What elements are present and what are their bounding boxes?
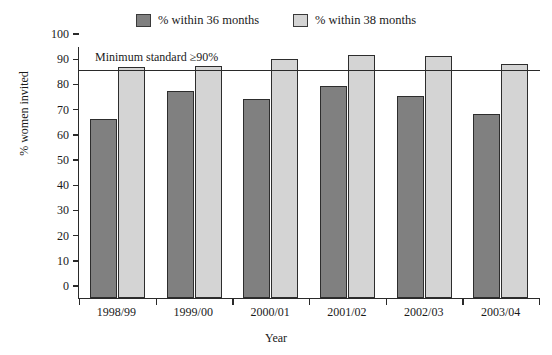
bar-group bbox=[386, 47, 463, 298]
y-axis-tick: 50 bbox=[57, 154, 79, 166]
plot-wrapper: % women invited 0102030405060708090100 M… bbox=[0, 0, 552, 355]
bar-36-months bbox=[397, 96, 424, 298]
x-axis-tick-label: 2001/02 bbox=[308, 305, 385, 320]
bar-36-months bbox=[243, 99, 270, 298]
y-axis-tick-label: 50 bbox=[57, 154, 69, 166]
bar-38-months bbox=[195, 66, 222, 298]
x-axis-tick-mark bbox=[232, 298, 233, 305]
x-axis-tick-mark bbox=[462, 298, 463, 305]
bar-38-months bbox=[501, 64, 528, 298]
y-axis-tick-label: 70 bbox=[57, 104, 69, 116]
y-axis-tick: 30 bbox=[57, 204, 79, 216]
bar-38-months bbox=[348, 55, 375, 298]
y-axis-tick-label: 0 bbox=[63, 280, 69, 292]
y-axis-tick: 100 bbox=[51, 28, 79, 40]
minimum-standard-annotation: Minimum standard ≥90% bbox=[95, 50, 218, 65]
x-axis-tick-mark bbox=[156, 298, 157, 305]
bar-36-months bbox=[167, 91, 194, 298]
y-axis-title: % women invited bbox=[17, 44, 32, 184]
y-axis-tick: 40 bbox=[57, 179, 79, 191]
y-axis-tick: 80 bbox=[57, 78, 79, 90]
y-axis-tick-label: 10 bbox=[57, 255, 69, 267]
bar-chart: % within 36 months % within 38 months % … bbox=[0, 0, 552, 355]
bar-38-months bbox=[425, 56, 452, 298]
y-axis-tick-label: 30 bbox=[57, 204, 69, 216]
x-axis-tick-mark bbox=[79, 298, 80, 305]
bar-group bbox=[309, 47, 386, 298]
bar-36-months bbox=[320, 86, 347, 298]
bar-36-months bbox=[473, 114, 500, 298]
x-axis-tick-label: 2002/03 bbox=[385, 305, 462, 320]
x-axis-tick-mark bbox=[386, 298, 387, 305]
y-axis-tick-label: 90 bbox=[57, 53, 69, 65]
x-axis-tick-label: 1999/00 bbox=[155, 305, 232, 320]
y-axis-tick-label: 60 bbox=[57, 129, 69, 141]
bar-36-months bbox=[90, 119, 117, 298]
x-axis-tick-mark bbox=[309, 298, 310, 305]
y-axis-tick-label: 80 bbox=[57, 78, 69, 90]
x-axis-title: Year bbox=[0, 331, 552, 346]
bar-38-months bbox=[118, 67, 145, 298]
y-axis-tick-label: 100 bbox=[51, 28, 69, 40]
y-axis-tick: 20 bbox=[57, 230, 79, 242]
plot-area: 0102030405060708090100 Minimum standard … bbox=[78, 47, 539, 299]
x-axis-tick-mark bbox=[539, 298, 540, 305]
y-axis-tick: 0 bbox=[63, 280, 79, 292]
y-axis-tick: 70 bbox=[57, 104, 79, 116]
bar-group bbox=[462, 47, 539, 298]
bar-38-months bbox=[271, 59, 298, 298]
y-axis-tick-label: 40 bbox=[57, 179, 69, 191]
bar-group bbox=[79, 47, 156, 298]
x-axis-tick-label: 2003/04 bbox=[462, 305, 539, 320]
y-axis-tick: 10 bbox=[57, 255, 79, 267]
y-axis-tick-label: 20 bbox=[57, 230, 69, 242]
y-axis-tick-mark bbox=[73, 33, 79, 34]
minimum-standard-reference-line bbox=[79, 70, 540, 71]
x-axis-tick-label: 1998/99 bbox=[78, 305, 155, 320]
y-axis-tick: 90 bbox=[57, 53, 79, 65]
bar-groups bbox=[79, 47, 539, 298]
x-axis-tick-label: 2000/01 bbox=[232, 305, 309, 320]
y-axis-tick: 60 bbox=[57, 129, 79, 141]
bar-group bbox=[232, 47, 309, 298]
x-axis-tick-labels: 1998/991999/002000/012001/022002/032003/… bbox=[78, 305, 539, 320]
bar-group bbox=[156, 47, 233, 298]
